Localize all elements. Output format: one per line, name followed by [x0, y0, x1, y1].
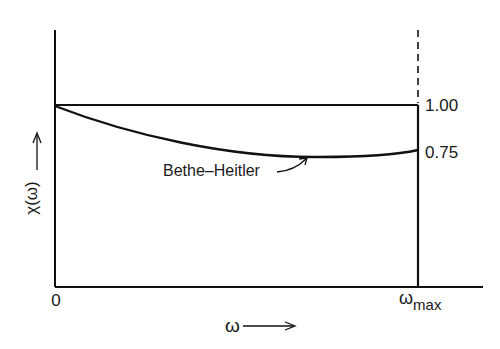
x-max-label-main: ω	[399, 288, 413, 308]
x-axis-label: ω	[225, 315, 240, 336]
bethe-heitler-curve	[55, 106, 418, 157]
level-upper-label: 1.00	[425, 96, 458, 115]
level-lower-label: 0.75	[425, 143, 458, 162]
curve-label-arrow	[277, 159, 306, 172]
curve-label: Bethe–Heitler	[163, 162, 261, 179]
x-max-label: ωmax	[399, 288, 442, 313]
figure-canvas: χ(ω) ω 0 ωmax 1.00 0.75 Bethe–Heitler	[0, 0, 500, 349]
x-origin-label: 0	[51, 291, 60, 310]
x-max-label-sub: max	[413, 296, 442, 313]
y-axis-label: χ(ω)	[22, 181, 41, 215]
